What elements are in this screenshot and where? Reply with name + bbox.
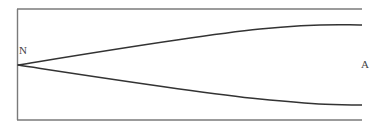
vertex-point bbox=[17, 64, 19, 66]
point-label-n: N bbox=[19, 45, 27, 56]
diagram-canvas bbox=[0, 0, 382, 127]
point-label-a: A bbox=[361, 59, 369, 70]
upper-curve bbox=[18, 25, 362, 65]
lower-curve bbox=[18, 65, 362, 105]
